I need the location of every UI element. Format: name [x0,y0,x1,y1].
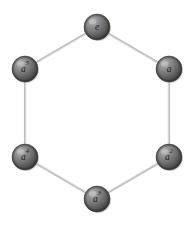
node-specular-highlight [89,19,97,25]
node-specular-highlight [89,191,97,197]
graph-node[interactable]: a [156,56,183,83]
node-specular-highlight [161,149,169,155]
edge-layer [25,27,169,199]
node-rim-shading [84,186,110,212]
node-rim-shading [12,56,38,82]
graph-node[interactable]: a2 [156,144,183,171]
graph-node[interactable]: a5 [12,56,39,83]
graph-canvas: eaa2a3a4a5 [0,0,195,225]
node-rim-shading [156,144,182,170]
node-rim-shading [84,14,110,40]
cycle-graph-figure: eaa2a3a4a5 [0,0,195,225]
node-rim-shading [12,144,38,170]
graph-node[interactable]: e [84,14,111,41]
graph-node[interactable]: a3 [84,186,111,213]
node-rim-shading [156,56,182,82]
node-layer: eaa2a3a4a5 [12,14,183,213]
node-specular-highlight [161,61,169,67]
node-specular-highlight [17,149,25,155]
graph-node[interactable]: a4 [12,144,39,171]
node-specular-highlight [17,61,25,67]
